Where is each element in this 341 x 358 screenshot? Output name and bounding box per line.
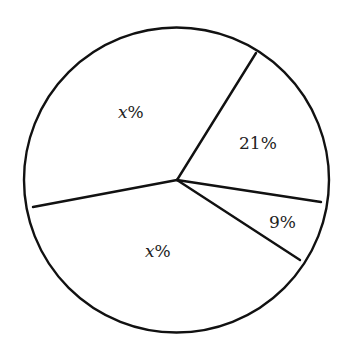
slice-label-upper-left: x% <box>118 102 144 122</box>
slice-label-9: 9% <box>269 212 296 232</box>
slice-label-bottom: x% <box>145 241 171 261</box>
percent-sign: % <box>128 102 144 122</box>
variable-x: x <box>145 241 155 261</box>
percent-sign: % <box>155 241 171 261</box>
slice-label-21: 21% <box>239 133 277 153</box>
pie-chart: x% 21% 9% x% <box>0 0 341 358</box>
variable-x: x <box>118 102 128 122</box>
